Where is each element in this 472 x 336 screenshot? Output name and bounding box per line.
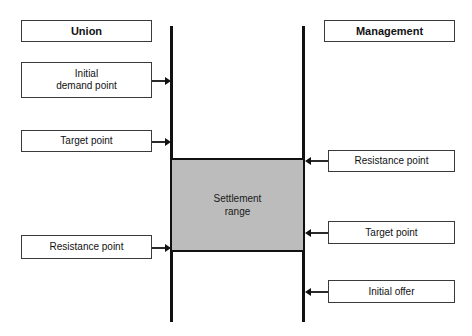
management-initial-offer-connector xyxy=(311,291,328,293)
union-target-point-box: Target point xyxy=(21,130,152,152)
union-header-box: Union xyxy=(21,20,152,42)
management-header-label: Management xyxy=(356,25,423,37)
union-resistance-connector xyxy=(152,247,166,249)
management-header-box: Management xyxy=(324,20,455,42)
union-resistance-arrow-icon xyxy=(165,244,171,252)
management-initial-offer-label: Initial offer xyxy=(369,286,415,298)
settlement-range-label: Settlement range xyxy=(214,192,262,218)
management-initial-offer-box: Initial offer xyxy=(328,280,455,303)
union-target-arrow-icon xyxy=(165,138,171,146)
union-resistance-point-label: Resistance point xyxy=(50,241,124,253)
bargaining-zone-diagram: Settlement range Union Management Initia… xyxy=(0,0,472,336)
union-resistance-point-box: Resistance point xyxy=(21,235,152,259)
management-target-point-box: Target point xyxy=(328,221,455,244)
union-target-connector xyxy=(152,141,166,143)
union-target-point-label: Target point xyxy=(60,135,112,147)
management-resistance-connector xyxy=(311,160,328,162)
management-resistance-point-box: Resistance point xyxy=(328,150,455,172)
management-resistance-point-label: Resistance point xyxy=(355,155,429,167)
union-header-label: Union xyxy=(71,25,102,37)
settlement-range-block: Settlement range xyxy=(172,158,303,252)
management-target-arrow-icon xyxy=(305,229,311,237)
union-initial-demand-point-label: Initial demand point xyxy=(56,68,117,92)
management-target-connector xyxy=(311,232,328,234)
management-resistance-arrow-icon xyxy=(305,157,311,165)
union-initial-demand-point-box: Initial demand point xyxy=(21,62,152,98)
management-initial-offer-arrow-icon xyxy=(305,288,311,296)
union-initial-demand-connector xyxy=(152,80,166,82)
management-target-point-label: Target point xyxy=(365,227,417,239)
union-initial-demand-arrow-icon xyxy=(165,77,171,85)
